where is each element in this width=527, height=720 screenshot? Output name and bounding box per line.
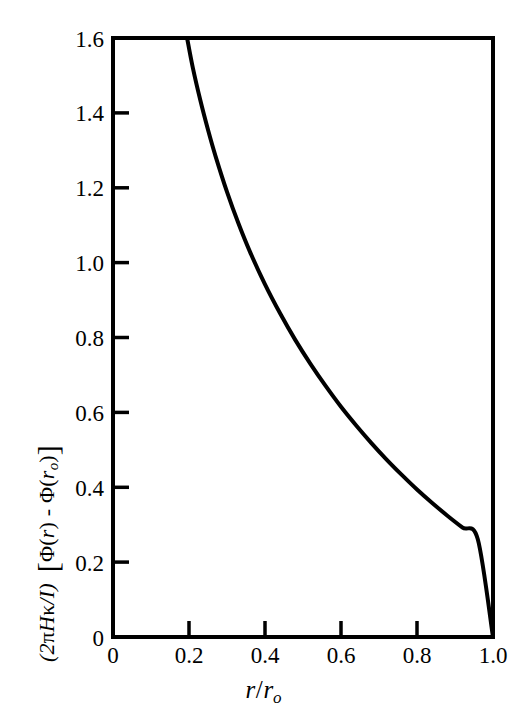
x-tick-label-1: 0.2	[175, 643, 204, 668]
y-tick-label-6: 1.2	[75, 176, 104, 201]
kappa-symbol: κ	[34, 605, 59, 616]
x-axis-title-denominator-subscript: o	[273, 688, 282, 707]
y-tick-label-5: 1.0	[75, 251, 104, 276]
y-tick-label-2: 0.4	[75, 476, 104, 501]
y-tick-label-3: 0.6	[75, 401, 104, 426]
phi-symbol-1: Φ	[34, 546, 59, 562]
pi-symbol: π	[34, 632, 59, 643]
bracket-close: ]	[31, 445, 64, 455]
x-axis-tick-labels: 0 0.2 0.4 0.6 0.8 1.0	[107, 643, 507, 668]
y-axis-tick-labels: 0 0.2 0.4 0.6 0.8 1.0 1.2 1.4 1.6	[75, 27, 104, 651]
y-tick-label-7: 1.4	[75, 101, 104, 126]
y-axis-slash: /	[34, 598, 59, 604]
y-axis-arg1-close: )	[34, 522, 59, 530]
x-tick-label-0: 0	[107, 643, 119, 668]
y-axis-r2-subscript: o	[45, 463, 61, 471]
x-tick-label-2: 0.4	[251, 643, 280, 668]
y-axis-H: H	[34, 616, 59, 632]
chart-plot: 0 0.2 0.4 0.6 0.8 1.0 0 0.2 0.4 0.6 0.8 …	[0, 0, 527, 720]
y-axis-r1: r	[34, 529, 59, 538]
figure-container: 0 0.2 0.4 0.6 0.8 1.0 0 0.2 0.4 0.6 0.8 …	[0, 0, 527, 720]
y-tick-label-8: 1.6	[75, 27, 104, 52]
y-axis-arg2-open: (	[34, 479, 59, 487]
x-axis-title-numerator: r	[245, 676, 255, 703]
phi-symbol-2: Φ	[34, 487, 59, 503]
y-tick-label-1: 0.2	[75, 551, 104, 576]
bracket-open: [	[31, 562, 64, 572]
y-axis-arg1-open: (	[34, 538, 59, 546]
y-axis-prefix-open: (2	[34, 643, 59, 662]
y-tick-label-4: 0.8	[75, 326, 104, 351]
y-axis-title: (2πHκ/I)[Φ(r) - Φ(ro)]	[24, 22, 70, 662]
x-tick-label-4: 0.8	[403, 643, 432, 668]
minus-symbol: -	[34, 509, 59, 517]
y-tick-label-0: 0	[93, 626, 105, 651]
x-axis-title: r/ro	[0, 676, 527, 708]
y-axis-I: I	[34, 591, 59, 599]
y-axis-r2: r	[34, 470, 59, 479]
y-axis-arg2-close: )	[34, 455, 59, 463]
x-tick-label-3: 0.6	[327, 643, 356, 668]
plot-frame	[113, 38, 493, 637]
y-axis-prefix-close: )	[34, 583, 59, 591]
x-axis-title-denominator: r	[263, 676, 273, 703]
x-tick-label-5: 1.0	[479, 643, 508, 668]
